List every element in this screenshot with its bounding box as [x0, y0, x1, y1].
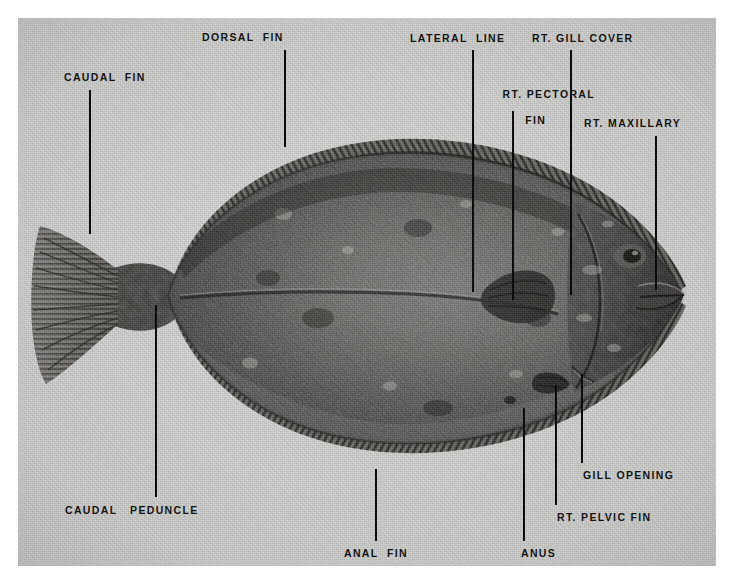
leader-line-gill-opening	[581, 374, 583, 463]
label-anal-fin: ANAL FIN	[344, 547, 408, 560]
leader-line-dorsal-fin	[284, 50, 286, 147]
label-rt-maxillary: RT. MAXILLARY	[584, 117, 681, 130]
label-rt-pectoral-fin-line1: RT. PECTORAL	[503, 88, 595, 100]
leader-line-lateral-line	[472, 50, 474, 292]
label-caudal-peduncle: CAUDAL PEDUNCLE	[65, 504, 199, 517]
annotation-layer: CAUDAL FIN DORSAL FIN LATERAL LINE RT. P…	[0, 0, 735, 584]
label-rt-pelvic-fin: RT. PELVIC FIN	[557, 511, 652, 524]
label-rt-pectoral-fin: RT. PECTORAL FIN	[477, 75, 569, 140]
leader-line-rt-pectoral-fin	[512, 111, 514, 300]
leader-line-anus	[523, 408, 525, 541]
leader-line-anal-fin	[375, 469, 377, 541]
label-anus: ANUS	[521, 547, 556, 560]
label-caudal-fin: CAUDAL FIN	[64, 71, 146, 84]
label-gill-opening: GILL OPENING	[583, 469, 674, 482]
label-dorsal-fin: DORSAL FIN	[202, 31, 284, 44]
leader-line-caudal-fin	[89, 90, 91, 234]
leader-line-rt-pelvic-fin	[555, 385, 557, 505]
label-rt-gill-cover: RT. GILL COVER	[532, 32, 634, 45]
label-lateral-line: LATERAL LINE	[410, 32, 505, 45]
leader-line-rt-maxillary	[655, 136, 657, 290]
leader-line-rt-gill-cover	[570, 50, 572, 295]
anatomy-plate: CAUDAL FIN DORSAL FIN LATERAL LINE RT. P…	[0, 0, 735, 584]
label-rt-pectoral-fin-line2: FIN	[525, 114, 546, 126]
leader-line-caudal-peduncle	[155, 305, 157, 497]
